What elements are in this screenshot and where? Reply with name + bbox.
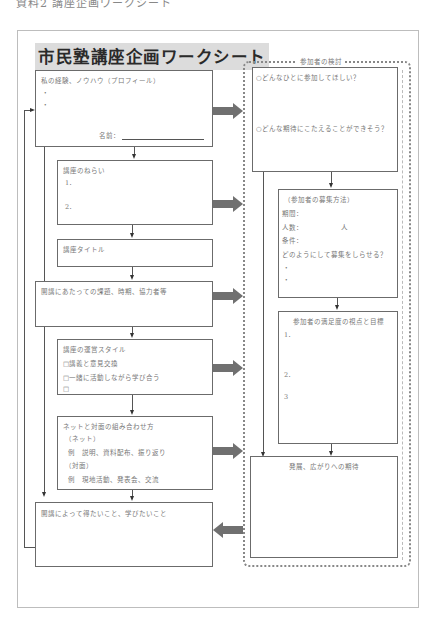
target-participants-box[interactable]: ○どんなひとに参加してほしい？ ○どんな期待にこたえることができそう？ xyxy=(252,67,398,172)
connector-line xyxy=(44,327,45,492)
arrow-down-icon xyxy=(130,496,134,501)
style-option-other[interactable]: □ xyxy=(63,385,69,393)
arrow-down-icon xyxy=(329,183,333,188)
recruit-period-label: 期間： xyxy=(282,208,303,218)
target-question-who: ○どんなひとに参加してほしい？ xyxy=(256,72,360,82)
fat-arrow-right-icon xyxy=(213,288,243,304)
operation-style-box[interactable]: 講座の運営スタイル □講義と意見交換 □一緒に活動しながら学び合う □ xyxy=(57,339,213,395)
gain-box[interactable]: 開講によって得たいこと、学びたいこと xyxy=(35,502,213,567)
blend-heading: ネットと対面の組み合わせ方 xyxy=(63,421,154,431)
blend-net-label: （ネット） xyxy=(65,433,100,443)
arrow-right-icon xyxy=(30,108,35,112)
recruit-how-question: どのようにして募集をしらせる？ xyxy=(282,249,387,259)
arrow-down-icon xyxy=(130,275,134,280)
feedback-line xyxy=(24,110,25,548)
feedback-line xyxy=(24,547,35,548)
aims-box[interactable]: 講座のねらい 1． 2． xyxy=(57,160,213,225)
satisfaction-goals-box[interactable]: 参加者の満足度の視点と目標 1． 2． 3 xyxy=(278,311,398,444)
satisfaction-item-3: 3 xyxy=(284,393,288,401)
arrow-down-icon xyxy=(132,154,136,159)
satisfaction-heading: 参加者の満足度の視点と目標 xyxy=(293,316,384,326)
net-face-blend-box[interactable]: ネットと対面の組み合わせ方 （ネット） 例 説明、資料配布、振り返り （対面） … xyxy=(57,416,213,490)
arrow-down-icon xyxy=(42,492,46,497)
satisfaction-item-1: 1． xyxy=(284,329,295,339)
fat-arrow-right-icon xyxy=(213,443,243,459)
page-title: 市民塾講座企画ワークシート xyxy=(35,43,269,70)
gain-heading: 開講によって得たいこと、学びたいこと xyxy=(41,508,167,518)
recruit-count-unit: 人 xyxy=(341,222,348,232)
style-option-activity[interactable]: □一緒に活動しながら学び合う xyxy=(63,372,160,382)
fat-arrow-right-icon xyxy=(213,196,243,212)
recruitment-method-box[interactable]: （参加者の募集方法） 期間： 人数： 人 条件： どのようにして募集をしらせる？… xyxy=(278,189,398,298)
name-field[interactable] xyxy=(122,139,204,140)
arrow-down-icon xyxy=(130,410,134,415)
recruit-heading: （参加者の募集方法） xyxy=(284,194,354,204)
participant-review-label: 参加者の検討 xyxy=(297,56,345,66)
satisfaction-item-2: 2． xyxy=(284,369,295,379)
arrow-down-icon xyxy=(130,233,134,238)
style-option-lecture[interactable]: □講義と意見交換 xyxy=(63,358,118,368)
fat-arrow-right-icon xyxy=(213,103,243,119)
aims-item-1: 1． xyxy=(65,177,76,187)
recruit-condition-label: 条件： xyxy=(282,235,303,245)
recruit-bullet-1: ・ xyxy=(283,262,290,272)
recruit-count-label: 人数： xyxy=(282,222,303,232)
arrow-down-icon xyxy=(130,333,134,338)
fat-arrow-left-icon xyxy=(213,522,243,538)
blend-net-example: 例 説明、資料配布、振り返り xyxy=(68,447,166,457)
connector-line xyxy=(132,395,133,411)
development-expectation-box[interactable]: 発展、広がりへの期待 xyxy=(250,456,398,558)
target-question-expectation: ○どんな期待にこたえることができそう？ xyxy=(256,123,388,133)
aims-item-2: 2． xyxy=(65,201,76,211)
style-heading: 講座の運営スタイル xyxy=(63,344,126,354)
profile-bullet-2: ・ xyxy=(42,99,49,109)
connector-line xyxy=(263,172,264,452)
blend-face-example: 例 現地活動、発表会、交流 xyxy=(68,474,159,484)
course-title-box[interactable]: 講座タイトル xyxy=(57,239,213,267)
recruit-bullet-2: ・ xyxy=(283,274,290,284)
aims-heading: 講座のねらい xyxy=(63,165,105,175)
fat-arrow-right-icon xyxy=(213,360,243,376)
arrow-down-icon xyxy=(335,305,339,310)
profile-bullet-1: ・ xyxy=(42,87,49,97)
issues-heading: 開講にあたっての課題、時期、協力者等 xyxy=(41,286,167,296)
guide-line xyxy=(402,70,403,560)
blend-face-label: （対面） xyxy=(65,460,93,470)
profile-box[interactable]: 私の経験、ノウハウ（プロフィール） ・ ・ 名前： xyxy=(35,70,213,147)
document-caption: 資料2 講座企画ワークシート xyxy=(16,0,173,10)
course-title-heading: 講座タイトル xyxy=(63,244,105,254)
connector-line xyxy=(44,147,45,281)
profile-heading: 私の経験、ノウハウ（プロフィール） xyxy=(41,75,160,85)
issues-box[interactable]: 開講にあたっての課題、時期、協力者等 xyxy=(35,281,213,327)
expectation-heading: 発展、広がりへの期待 xyxy=(289,461,359,471)
name-label: 名前： xyxy=(99,130,120,140)
